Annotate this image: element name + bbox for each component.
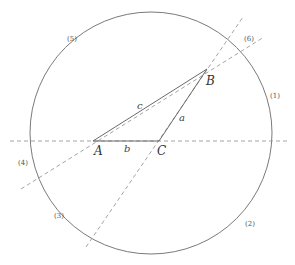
side-c bbox=[93, 69, 207, 141]
region-label-2: (2) bbox=[245, 220, 255, 228]
region-label-6: (6) bbox=[244, 35, 254, 43]
side-label-c: c bbox=[137, 100, 143, 111]
triangle-circle-diagram: A B C a b c (1) (2) (3) (4) (5) (6) bbox=[0, 0, 295, 265]
region-label-5: (5) bbox=[67, 35, 77, 43]
vertex-label-c: C bbox=[157, 144, 166, 158]
region-label-3: (3) bbox=[54, 212, 64, 220]
vertex-label-a: A bbox=[93, 144, 103, 158]
side-label-b: b bbox=[124, 143, 130, 154]
side-label-a: a bbox=[179, 112, 185, 123]
outer-circle bbox=[30, 12, 272, 254]
region-label-4: (4) bbox=[18, 159, 28, 167]
line-ab-extended bbox=[21, 37, 264, 189]
region-label-1: (1) bbox=[270, 92, 280, 100]
vertex-label-b: B bbox=[205, 74, 215, 88]
side-a bbox=[159, 69, 207, 141]
